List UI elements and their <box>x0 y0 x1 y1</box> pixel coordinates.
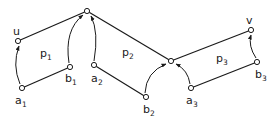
label-a2-sub: 2 <box>98 78 103 87</box>
edge-a1-b1 <box>22 67 70 88</box>
node-top <box>84 8 89 13</box>
region-p2: p <box>122 46 129 59</box>
label-b1: b <box>65 72 72 85</box>
label-a1-sub: 1 <box>22 100 27 109</box>
edge-mid-v <box>171 30 251 61</box>
region-p2-sub: 2 <box>129 52 134 61</box>
node-labels: u a 1 b 1 a 2 b 2 a 3 v b 3 <box>13 14 267 118</box>
label-u: u <box>13 25 20 38</box>
node-mid <box>168 58 173 63</box>
label-b2: b <box>143 103 150 116</box>
arc-a3-to-mid <box>176 64 190 84</box>
label-v: v <box>246 14 253 27</box>
node-b1 <box>67 64 72 69</box>
label-b1-sub: 1 <box>72 78 77 87</box>
label-a2: a <box>91 72 98 85</box>
node-a2 <box>91 62 96 67</box>
region-p3-sub: 3 <box>223 58 228 67</box>
node-b3 <box>254 59 259 64</box>
label-b3-sub: 3 <box>262 74 267 83</box>
edge-u-top <box>18 11 87 41</box>
node-a3 <box>188 85 193 90</box>
label-a3: a <box>186 94 193 107</box>
arc-a1-to-u <box>16 46 20 84</box>
node-u <box>15 38 20 43</box>
arc-b3-to-v <box>250 35 256 58</box>
label-a1: a <box>15 94 22 107</box>
region-p1-sub: 1 <box>47 53 52 62</box>
arc-a2-to-top <box>91 16 96 61</box>
label-b2-sub: 2 <box>150 109 155 118</box>
node-v <box>248 27 253 32</box>
arc-b1-to-top <box>68 15 83 63</box>
node-b2 <box>143 94 148 99</box>
arc-b2-to-mid <box>145 64 166 93</box>
region-p1: p <box>40 47 47 60</box>
path-decomposition-diagram: u a 1 b 1 a 2 b 2 a 3 v b 3 p 1 p 2 p 3 <box>0 0 280 121</box>
node-a1 <box>19 85 24 90</box>
label-b3: b <box>255 68 262 81</box>
region-p3: p <box>216 52 223 65</box>
label-a3-sub: 3 <box>193 100 198 109</box>
